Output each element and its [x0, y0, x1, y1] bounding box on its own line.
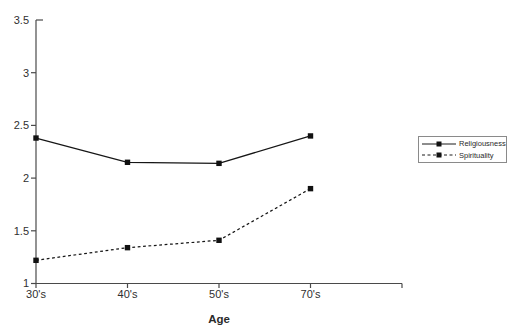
dashed-line-marker-icon — [421, 150, 457, 160]
y-tick-label: 3.5 — [14, 14, 29, 26]
legend-label-religiousness: Religiousness — [459, 140, 506, 148]
series-line-religiousness — [36, 136, 311, 163]
y-tick-label: 2.5 — [14, 119, 29, 131]
data-point-marker-spirituality — [125, 245, 130, 250]
legend-item-spirituality: Spirituality — [421, 150, 504, 160]
plot-area: 11.522.533.530's40's50's70's — [0, 0, 514, 330]
legend-label-spirituality: Spirituality — [459, 152, 494, 160]
x-axis-title: Age — [208, 313, 230, 325]
solid-line-marker-icon — [421, 139, 457, 149]
legend-item-religiousness: Religiousness — [421, 139, 504, 149]
y-tick-label: 2 — [23, 172, 29, 184]
legend: Religiousness Spirituality — [418, 136, 507, 163]
line-chart-figure: 11.522.533.530's40's50's70's Age Religio… — [0, 0, 514, 330]
x-category-label: 30's — [26, 288, 46, 300]
data-point-marker-religiousness — [308, 133, 313, 138]
data-point-marker-religiousness — [125, 160, 130, 165]
x-category-label: 70's — [301, 288, 321, 300]
x-category-label: 40's — [118, 288, 138, 300]
data-point-marker-religiousness — [216, 161, 221, 166]
y-tick-label: 3 — [23, 67, 29, 79]
data-point-marker-spirituality — [33, 258, 38, 263]
data-point-marker-religiousness — [33, 135, 38, 140]
x-category-label: 50's — [209, 288, 229, 300]
data-point-marker-spirituality — [308, 186, 313, 191]
series-line-spirituality — [36, 189, 311, 261]
y-tick-label: 1.5 — [14, 225, 29, 237]
data-point-marker-spirituality — [216, 238, 221, 243]
